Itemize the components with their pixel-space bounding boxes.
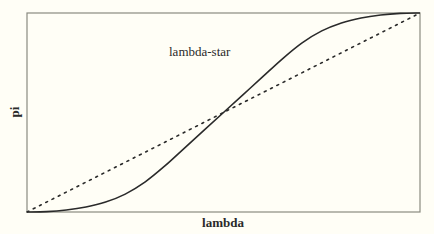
lambda-star-curve	[27, 13, 420, 212]
lambda-star-annotation: lambda-star	[169, 44, 231, 59]
chart: lambda-star lambda pi	[0, 0, 434, 234]
x-axis-label: lambda	[202, 215, 244, 230]
y-axis-label: pi	[7, 106, 22, 117]
